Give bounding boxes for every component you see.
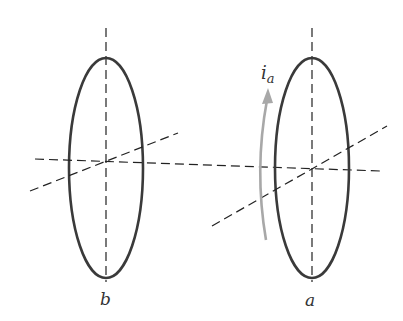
- current-arrow-head-icon: [262, 88, 273, 104]
- current-subscript: a: [267, 71, 275, 86]
- current-label: ia: [261, 62, 275, 86]
- diagram-canvas: [0, 0, 403, 321]
- coil-a-diagonal-axis: [212, 126, 387, 226]
- coil-b-label: b: [100, 289, 111, 309]
- coil-b-diagonal-axis: [30, 133, 178, 191]
- coil-a-label: a: [305, 290, 315, 310]
- current-arrow: [260, 100, 267, 240]
